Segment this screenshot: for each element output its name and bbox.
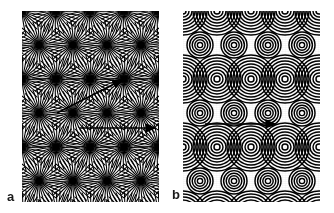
panel-label-b: b (172, 188, 180, 201)
panel-a-canvas (22, 11, 159, 202)
panel-label-a: a (7, 190, 14, 203)
figure-root: a b (0, 0, 334, 213)
panel-a-radial-star-pattern (22, 11, 159, 202)
panel-b-concentric-circle-pattern (183, 11, 320, 202)
panel-b-canvas (183, 11, 320, 202)
